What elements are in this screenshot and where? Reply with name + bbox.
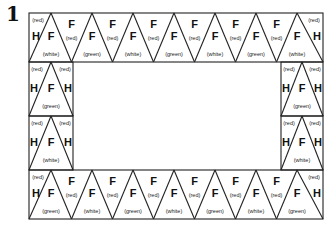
left_side-left-color: (red) [31, 66, 43, 72]
top_row-left-half-color: (red) [32, 17, 44, 23]
right_side-right-color: (red) [309, 66, 321, 72]
left_side-right-letter: H [64, 136, 72, 148]
top_row-up-triangle-color: (green) [83, 51, 101, 57]
right_side-left-color: (red) [283, 120, 295, 126]
bottom_row-down-triangle-color: (red) [66, 192, 78, 198]
left_side-center-color: (white) [43, 157, 60, 163]
top_row-down-triangle-color: (red) [230, 35, 242, 41]
right_side-right-letter: H [314, 82, 322, 94]
top_row-up-triangle-letter: F [130, 30, 137, 42]
bottom_row-down-triangle-letter: F [191, 175, 198, 187]
top_row-up-triangle-letter: F [294, 30, 301, 42]
top_row-down-triangle-letter: F [273, 18, 280, 30]
right_side-left-letter: H [282, 136, 290, 148]
right_side-right-color: (red) [309, 120, 321, 126]
bottom_row-down-triangle-color: (red) [271, 192, 283, 198]
right_side-left-color: (red) [283, 66, 295, 72]
top_row-down-triangle-color: (red) [189, 35, 201, 41]
bottom_row-right-half-color: (red) [308, 174, 320, 180]
right_side-center-letter: F [299, 136, 306, 148]
bottom_row-left-half-color: (red) [32, 174, 44, 180]
bottom_row-down-triangle-letter: F [68, 175, 75, 187]
top_row-down-triangle-letter: F [68, 18, 75, 30]
top_row-up-triangle-letter: F [253, 30, 260, 42]
bottom_row-up-triangle-color: (green) [124, 208, 142, 214]
left_side-right-color: (red) [59, 66, 71, 72]
left_side-center-letter: F [48, 136, 55, 148]
right_side-right-letter: H [314, 136, 322, 148]
top_row-down-triangle-letter: F [232, 18, 239, 30]
top_row-up-triangle-color: (green) [165, 51, 183, 57]
bottom_row-up-triangle-letter: F [212, 187, 219, 199]
top_row-up-triangle-letter: F [212, 30, 219, 42]
top_row-up-triangle-letter: F [171, 30, 178, 42]
left_side-right-letter: H [64, 82, 72, 94]
diagram-labels: (red)H(red)HF(white)F(green)F(white)F(gr… [30, 17, 322, 214]
bottom_row-down-triangle-letter: F [150, 175, 157, 187]
top_row-right-half-color: (red) [308, 17, 320, 23]
top_row-left-half-letter: H [32, 30, 40, 42]
right_side-left-letter: H [282, 82, 290, 94]
bottom_row-down-triangle-color: (red) [148, 192, 160, 198]
bottom_row-up-triangle-letter: F [48, 187, 55, 199]
bottom_row-up-triangle-color: (green) [288, 208, 306, 214]
top_row-down-triangle-letter: F [191, 18, 198, 30]
top_row-down-triangle-color: (red) [107, 35, 119, 41]
top_row-down-triangle-color: (red) [148, 35, 160, 41]
top_row-up-triangle-color: (green) [247, 51, 265, 57]
left_side-left-letter: H [30, 82, 38, 94]
left_side-left-color: (red) [31, 120, 43, 126]
bottom_row-down-triangle-letter: F [273, 175, 280, 187]
bottom_row-up-triangle-letter: F [89, 187, 96, 199]
left_side-center-color: (green) [42, 103, 60, 109]
bottom_row-up-triangle-color: (white) [248, 208, 265, 214]
right_side-center-color: (green) [293, 103, 311, 109]
left_side-center-letter: F [48, 82, 55, 94]
top_row-up-triangle-color: (white) [125, 51, 142, 57]
top_row-up-triangle-color: (white) [207, 51, 224, 57]
top_row-down-triangle-letter: F [150, 18, 157, 30]
bottom_row-up-triangle-letter: F [171, 187, 178, 199]
top_row-right-half-letter: H [313, 30, 321, 42]
bottom_row-left-half-letter: H [32, 187, 40, 199]
top_row-up-triangle-letter: F [89, 30, 96, 42]
right_side-center-color: (white) [294, 157, 311, 163]
top_row-down-triangle-letter: F [109, 18, 116, 30]
bottom_row-down-triangle-color: (red) [189, 192, 201, 198]
left_side-right-color: (red) [59, 120, 71, 126]
top_row-up-triangle-letter: F [48, 30, 55, 42]
bottom_row-up-triangle-letter: F [130, 187, 137, 199]
bottom_row-up-triangle-color: (green) [206, 208, 224, 214]
left_side-left-letter: H [30, 136, 38, 148]
bottom_row-down-triangle-color: (red) [230, 192, 242, 198]
bottom_row-right-half-letter: H [313, 187, 321, 199]
bottom_row-up-triangle-color: (green) [42, 208, 60, 214]
quilt-border-diagram: (red)H(red)HF(white)F(green)F(white)F(gr… [0, 0, 335, 231]
right_side-center-letter: F [299, 82, 306, 94]
top_row-down-triangle-color: (red) [66, 35, 78, 41]
bottom_row-down-triangle-letter: F [232, 175, 239, 187]
top_row-up-triangle-color: (white) [289, 51, 306, 57]
bottom_row-up-triangle-color: (white) [166, 208, 183, 214]
top_row-down-triangle-color: (red) [271, 35, 283, 41]
top_row-up-triangle-color: (white) [43, 51, 60, 57]
bottom_row-down-triangle-letter: F [109, 175, 116, 187]
bottom_row-up-triangle-letter: F [253, 187, 260, 199]
bottom_row-down-triangle-color: (red) [107, 192, 119, 198]
bottom_row-up-triangle-letter: F [294, 187, 301, 199]
bottom_row-up-triangle-color: (white) [84, 208, 101, 214]
